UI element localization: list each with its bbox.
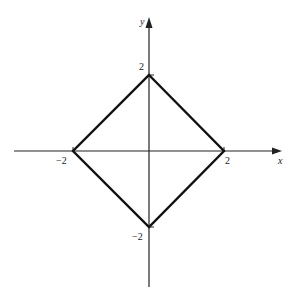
- x-tick-label-pos2: 2: [225, 155, 230, 166]
- diamond-diagram: y x −2 2 2 −2: [0, 0, 297, 298]
- x-axis-label: x: [277, 155, 283, 166]
- x-axis-arrow-icon: [272, 148, 282, 155]
- y-tick-label-pos2: 2: [139, 61, 144, 72]
- y-tick-label-neg2: −2: [132, 231, 143, 242]
- y-axis-arrow-icon: [146, 17, 153, 28]
- x-tick-label-neg2: −2: [56, 155, 67, 166]
- y-axis-label: y: [139, 16, 145, 27]
